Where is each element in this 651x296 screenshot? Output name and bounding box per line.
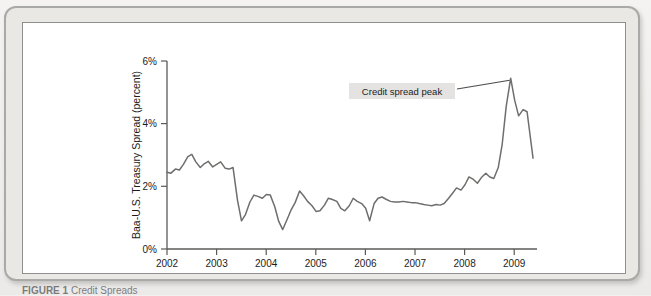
y-axis-title: Baa-U.S. Treasury Spread (percent) [130,71,142,239]
annotation-leader-line [457,80,510,89]
x-axis-ticks [167,249,514,255]
x-tick-label-2004: 2004 [255,258,278,269]
figure-inner-plate: 0% 2% 4% 6% 2002 2003 2004 2005 2006 200… [22,22,626,274]
y-tick-label-2: 2% [143,181,158,192]
x-tick-label-2002: 2002 [156,258,179,269]
x-tick-label-2005: 2005 [305,258,328,269]
x-tick-label-2003: 2003 [205,258,228,269]
x-tick-label-2006: 2006 [354,258,377,269]
figure-caption-body: Credit Spreads [71,285,138,296]
credit-spread-line-chart: 0% 2% 4% 6% 2002 2003 2004 2005 2006 200… [23,23,627,275]
y-tick-label-6: 6% [143,56,158,67]
data-series-line [167,78,533,229]
annotation-label: Credit spread peak [362,86,443,97]
y-tick-label-0: 0% [143,244,158,255]
y-axis-ticks [161,61,167,249]
x-tick-label-2007: 2007 [404,258,427,269]
figure-outer-frame: 0% 2% 4% 6% 2002 2003 2004 2005 2006 200… [4,6,640,281]
x-tick-label-2008: 2008 [453,258,476,269]
figure-caption-label: FIGURE 1 [22,285,68,296]
y-tick-label-4: 4% [143,118,158,129]
x-tick-label-2009: 2009 [503,258,526,269]
figure-caption: FIGURE 1 Credit Spreads [22,285,622,296]
